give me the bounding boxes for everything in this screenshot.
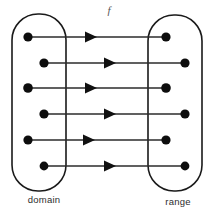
mapping-arrowhead: [85, 83, 97, 94]
domain-element-dot: [23, 83, 33, 93]
range-element-dot: [181, 162, 190, 171]
domain-element-dot: [23, 135, 32, 144]
range-element-dot: [180, 58, 189, 67]
range-element-dot: [180, 109, 189, 118]
mapping-arrowhead: [104, 109, 116, 120]
domain-element-dot: [39, 109, 48, 118]
range-element-dot: [161, 83, 171, 93]
mapping-arrows-group: [28, 32, 185, 172]
range-element-dot: [161, 135, 170, 144]
element-dots-group: [23, 32, 189, 170]
range-set-oval: [148, 15, 202, 191]
domain-element-dot: [39, 58, 48, 67]
function-mapping-diagram: f domain range: [0, 0, 214, 217]
domain-element-dot: [23, 32, 32, 41]
domain-set-oval: [12, 14, 66, 191]
domain-element-dot: [40, 162, 49, 171]
domain-caption-label: domain: [28, 194, 60, 205]
mapping-arrowhead: [104, 58, 116, 69]
diagram-canvas: f domain range: [0, 0, 214, 217]
mapping-arrowhead: [104, 161, 116, 172]
mapping-arrowhead: [85, 32, 97, 43]
range-caption-label: range: [165, 196, 190, 207]
range-element-dot: [161, 32, 170, 41]
function-label: f: [107, 4, 112, 16]
mapping-arrowhead: [83, 135, 95, 146]
